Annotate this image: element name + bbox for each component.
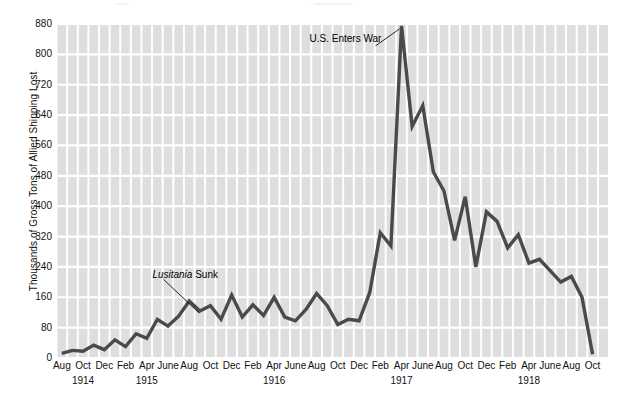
x-axis-year-1918: 1918 (499, 375, 559, 386)
x-axis-tick-labels: AugOctDecFebAprJuneAugOctDecFebAprJuneAu… (56, 360, 608, 404)
y-axis-tick-480: 480 (12, 171, 52, 181)
annotation-us-enters-war-label: U.S. Enters War (310, 33, 382, 44)
annotation-lusitania-italic: Lusitania (152, 269, 192, 280)
x-axis-year-1915: 1915 (117, 375, 177, 386)
y-axis-tick-240: 240 (12, 262, 52, 272)
y-axis-tick-880: 880 (12, 19, 52, 29)
annotation-us-enters-war: U.S. Enters War (310, 33, 382, 44)
y-axis-tick-400: 400 (12, 201, 52, 211)
y-axis-tick-labels: 080160240320400480560640720800880 (6, 0, 52, 404)
y-axis-tick-160: 160 (12, 292, 52, 302)
annotation-lusitania-plain: Sunk (192, 269, 218, 280)
chart-figure: Thousands of Gross Tons of Allied Shippi… (0, 0, 622, 404)
x-axis-year-1917: 1917 (372, 375, 432, 386)
y-axis-tick-640: 640 (12, 110, 52, 120)
x-axis-year-1916: 1916 (244, 375, 304, 386)
plot-area (56, 24, 608, 358)
top-crop-artifact (0, 3, 622, 5)
chart-canvas (56, 24, 608, 358)
y-axis-tick-560: 560 (12, 140, 52, 150)
y-axis-tick-720: 720 (12, 80, 52, 90)
x-axis-year-1914: 1914 (53, 375, 113, 386)
x-axis-tick-Oct: Oct (573, 360, 613, 371)
y-axis-tick-800: 800 (12, 49, 52, 59)
y-axis-tick-320: 320 (12, 232, 52, 242)
annotation-lusitania-sunk: Lusitania Sunk (152, 269, 218, 280)
y-axis-tick-80: 80 (12, 323, 52, 333)
